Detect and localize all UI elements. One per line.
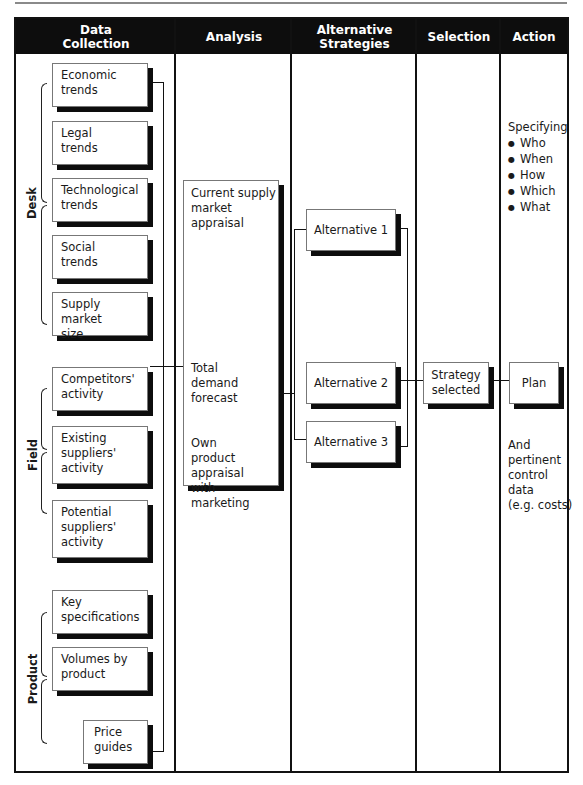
bullet-what: What xyxy=(508,200,555,216)
box-potential-suppliers-activity: Potential suppliers' activity xyxy=(52,500,148,558)
field-brace xyxy=(41,388,47,450)
action-bullet-list: Who When How Which What xyxy=(508,136,555,216)
top-rule xyxy=(15,2,567,4)
alt1-right-tick xyxy=(401,228,408,229)
desk-brace-lower xyxy=(41,205,47,325)
header-selection: Selection xyxy=(417,19,501,54)
box-alternative-3: Alternative 3 xyxy=(306,421,396,463)
product-brace-lower xyxy=(41,679,47,744)
box-existing-suppliers-activity: Existing suppliers' activity xyxy=(52,426,148,484)
collection-connector-top xyxy=(150,82,164,83)
box-social-trends: Social trends xyxy=(52,235,148,279)
action-specifying-heading: Specifying xyxy=(508,120,568,135)
action-control-data-note: And pertinent control data (e.g. costs) xyxy=(508,438,572,513)
analysis-to-alternatives-line xyxy=(279,393,294,394)
collection-connector-vertical xyxy=(163,82,164,751)
box-economic-trends: Economic trends xyxy=(52,63,148,107)
alt3-right-tick xyxy=(401,446,408,447)
box-key-specifications: Key specifications xyxy=(52,590,148,634)
bullet-when: When xyxy=(508,152,555,168)
bullet-how: How xyxy=(508,168,555,184)
box-volumes-by-product: Volumes by product xyxy=(52,647,148,691)
group-label-desk: Desk xyxy=(25,187,39,219)
box-technological-trends: Technological trends xyxy=(52,178,148,222)
selection-to-plan-line xyxy=(494,380,510,381)
header-alternative-strategies: Alternative Strategies xyxy=(292,19,417,54)
alternatives-to-selection-line xyxy=(401,380,424,381)
alternatives-right-vertical xyxy=(407,228,408,446)
box-supply-market-size: Supply market size xyxy=(52,292,148,336)
product-brace xyxy=(41,612,47,677)
box-competitors-activity: Competitors' activity xyxy=(52,367,148,411)
collection-connector-bottom xyxy=(150,751,164,752)
alt1-left-tick xyxy=(294,229,306,230)
header-data-collection: Data Collection xyxy=(16,19,176,54)
box-strategy-selected: Strategy selected xyxy=(423,362,489,404)
analysis-current-supply: Current supply market appraisal xyxy=(191,186,276,231)
group-label-product: Product xyxy=(26,654,40,705)
bullet-who: Who xyxy=(508,136,555,152)
alt3-left-tick xyxy=(294,439,306,440)
box-legal-trends: Legal trends xyxy=(52,121,148,165)
header-action: Action xyxy=(501,19,567,54)
alternatives-left-vertical xyxy=(294,229,295,439)
bullet-which: Which xyxy=(508,184,555,200)
analysis-total-demand: Total demand forecast xyxy=(191,361,238,406)
box-price-guides: Price guides xyxy=(83,720,148,764)
field-brace-lower xyxy=(41,452,47,514)
collection-to-analysis-line xyxy=(150,366,183,367)
header-analysis: Analysis xyxy=(176,19,292,54)
box-alternative-2: Alternative 2 xyxy=(306,362,396,404)
analysis-own-product: Own product appraisal with marketing xyxy=(191,436,250,511)
group-label-field: Field xyxy=(26,439,40,471)
box-alternative-1: Alternative 1 xyxy=(306,209,396,251)
desk-brace xyxy=(41,83,47,203)
box-plan: Plan xyxy=(509,362,559,404)
